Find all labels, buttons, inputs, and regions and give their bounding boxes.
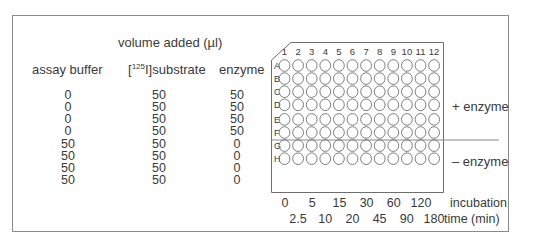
well — [374, 60, 385, 72]
well — [374, 73, 385, 85]
well — [415, 153, 426, 165]
well — [306, 114, 317, 126]
well — [402, 60, 413, 72]
well — [293, 73, 304, 85]
well — [388, 73, 399, 85]
well — [320, 60, 331, 72]
column-label: 2 — [295, 46, 300, 57]
well — [306, 127, 317, 139]
incubation-time: 15 — [324, 196, 354, 210]
incubation-time: 2.5 — [283, 212, 313, 226]
well — [347, 140, 358, 152]
column-label: 4 — [323, 46, 328, 57]
well — [306, 140, 317, 152]
incubation-time: 90 — [392, 212, 422, 226]
well — [374, 86, 385, 98]
well — [388, 127, 399, 139]
well — [361, 140, 372, 152]
well — [320, 86, 331, 98]
well — [334, 99, 345, 111]
column-label: 7 — [363, 46, 368, 57]
well — [334, 114, 345, 126]
well — [306, 86, 317, 98]
well — [415, 73, 426, 85]
well — [334, 86, 345, 98]
well — [320, 73, 331, 85]
well — [429, 140, 440, 152]
column-label: 5 — [336, 46, 341, 57]
time-min-label: time (min) — [444, 212, 500, 226]
well — [279, 73, 290, 85]
well — [320, 127, 331, 139]
well — [293, 140, 304, 152]
well — [293, 86, 304, 98]
well — [306, 99, 317, 111]
well — [279, 60, 290, 72]
well — [361, 73, 372, 85]
well — [334, 60, 345, 72]
well — [347, 127, 358, 139]
column-label: 8 — [377, 46, 382, 57]
well — [429, 114, 440, 126]
well — [415, 86, 426, 98]
well — [334, 127, 345, 139]
well — [388, 114, 399, 126]
well — [347, 60, 358, 72]
well — [279, 153, 290, 165]
well — [293, 99, 304, 111]
incubation-time: 30 — [352, 196, 382, 210]
well — [334, 140, 345, 152]
well — [361, 114, 372, 126]
incubation-time: 45 — [365, 212, 395, 226]
well — [388, 153, 399, 165]
well — [415, 99, 426, 111]
well — [429, 60, 440, 72]
well — [347, 153, 358, 165]
well — [374, 140, 385, 152]
column-label: 11 — [416, 46, 426, 57]
well — [388, 86, 399, 98]
well — [361, 127, 372, 139]
well — [361, 60, 372, 72]
well — [293, 153, 304, 165]
well — [293, 114, 304, 126]
incubation-time: 10 — [310, 212, 340, 226]
well — [402, 114, 413, 126]
well — [334, 153, 345, 165]
well — [415, 114, 426, 126]
column-labels: 123456789101112 — [282, 46, 440, 57]
column-label: 3 — [309, 46, 314, 57]
incubation-time: 120 — [406, 196, 436, 210]
column-label: 12 — [429, 46, 440, 57]
well — [374, 153, 385, 165]
well — [402, 99, 413, 111]
well — [402, 86, 413, 98]
well — [279, 99, 290, 111]
well — [402, 73, 413, 85]
well — [361, 99, 372, 111]
column-label: 6 — [350, 46, 355, 57]
well — [320, 99, 331, 111]
well — [347, 99, 358, 111]
well — [388, 140, 399, 152]
well — [320, 140, 331, 152]
well — [429, 86, 440, 98]
well — [415, 140, 426, 152]
minus-enzyme-label: – enzyme — [452, 154, 508, 169]
well — [306, 60, 317, 72]
well — [293, 127, 304, 139]
incubation-time: 60 — [379, 196, 409, 210]
wells — [279, 60, 439, 165]
well — [306, 153, 317, 165]
well — [361, 153, 372, 165]
well — [306, 73, 317, 85]
well — [334, 73, 345, 85]
well — [293, 60, 304, 72]
incubation-time: 5 — [297, 196, 327, 210]
well — [279, 86, 290, 98]
well — [347, 114, 358, 126]
well — [415, 127, 426, 139]
well — [347, 73, 358, 85]
well — [388, 99, 399, 111]
incubation-label: incubation — [450, 196, 507, 210]
